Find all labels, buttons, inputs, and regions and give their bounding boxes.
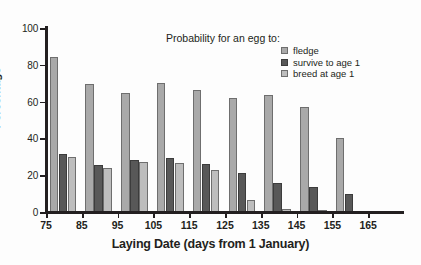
x-tick xyxy=(225,213,227,218)
bar xyxy=(202,164,211,212)
bar xyxy=(238,173,247,212)
bar xyxy=(157,83,166,212)
x-tick-label: 125 xyxy=(216,219,234,231)
y-tick-label: 0 xyxy=(33,207,38,218)
legend-label: fledge xyxy=(293,45,319,56)
y-tick xyxy=(40,28,45,30)
legend-swatch-icon xyxy=(281,59,288,66)
bar xyxy=(229,98,238,212)
legend-item: fledge xyxy=(281,45,360,56)
y-axis-label: Percentage xyxy=(0,67,2,128)
bar-group xyxy=(368,28,404,212)
bar-group xyxy=(118,28,154,212)
x-tick-label: 85 xyxy=(76,219,88,231)
y-tick-label: 80 xyxy=(27,59,38,70)
x-axis-ticks: 758595105115125135145155165 xyxy=(46,213,404,235)
x-tick xyxy=(368,213,370,218)
bar xyxy=(85,84,94,212)
bar xyxy=(59,154,68,212)
bar xyxy=(50,57,59,212)
legend-swatch-icon xyxy=(281,47,288,54)
legend-label: breed at age 1 xyxy=(293,68,354,79)
bar-group xyxy=(225,28,261,212)
legend-swatch-icon xyxy=(281,70,288,77)
y-tick-label: 40 xyxy=(27,133,38,144)
x-tick-label: 115 xyxy=(181,219,198,231)
bar-group xyxy=(189,28,225,212)
x-tick-label: 155 xyxy=(324,219,342,231)
x-tick xyxy=(153,213,155,218)
y-tick xyxy=(40,175,45,177)
x-tick xyxy=(118,213,120,218)
bar-chart-figure: 020406080100 Percentage 7585951051151251… xyxy=(0,0,421,265)
bar xyxy=(273,183,282,212)
legend: fledgesurvive to age 1breed at age 1 xyxy=(281,45,360,80)
bar-group xyxy=(46,28,82,212)
x-tick-label: 95 xyxy=(112,219,124,231)
x-tick-label: 75 xyxy=(40,219,52,231)
bar xyxy=(175,163,184,212)
y-tick-label: 100 xyxy=(22,23,38,34)
bar xyxy=(309,187,318,212)
x-tick xyxy=(82,213,84,218)
bar xyxy=(121,93,130,212)
legend-item: survive to age 1 xyxy=(281,57,360,68)
x-tick-label: 135 xyxy=(252,219,270,231)
y-tick-label: 60 xyxy=(27,96,38,107)
y-tick xyxy=(40,102,45,104)
bar xyxy=(211,170,220,212)
x-tick xyxy=(46,213,48,218)
x-tick xyxy=(261,213,263,218)
legend-label: survive to age 1 xyxy=(293,57,360,68)
bar xyxy=(336,138,345,212)
x-tick-label: 105 xyxy=(145,219,163,231)
x-tick-label: 165 xyxy=(359,219,377,231)
x-tick-label: 145 xyxy=(288,219,306,231)
x-tick xyxy=(332,213,334,218)
bar-group xyxy=(153,28,189,212)
legend-title: Probability for an egg to: xyxy=(166,32,280,44)
x-axis-label: Laying Date (days from 1 January) xyxy=(0,237,421,251)
x-tick xyxy=(297,213,299,218)
y-tick xyxy=(40,65,45,67)
bar xyxy=(139,162,148,212)
bar xyxy=(166,158,175,212)
bar-group xyxy=(82,28,118,212)
bar xyxy=(264,95,273,212)
bar xyxy=(68,157,77,212)
bar xyxy=(300,107,309,212)
bar xyxy=(193,90,202,212)
legend-item: breed at age 1 xyxy=(281,68,360,79)
bar xyxy=(94,165,103,212)
bar xyxy=(130,160,139,212)
bar xyxy=(345,194,354,212)
x-tick xyxy=(189,213,191,218)
y-tick xyxy=(40,138,45,140)
bar xyxy=(103,168,112,212)
y-tick-label: 20 xyxy=(27,170,38,181)
